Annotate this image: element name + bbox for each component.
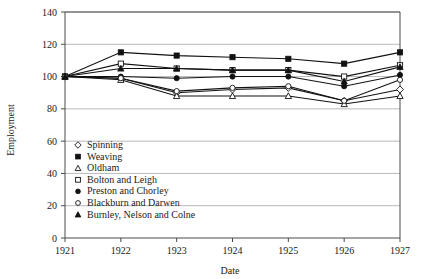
y-axis-ticks: 020406080100120140 <box>42 7 65 244</box>
marker-circle-open <box>118 76 123 81</box>
legend-item-burnley-nelson-and-colne: Burnley, Nelson and Colne <box>75 209 196 220</box>
legend-item-label: Blackburn and Darwen <box>87 197 180 208</box>
marker-triangle-filled <box>75 212 81 217</box>
y-tick-label: 140 <box>42 7 57 18</box>
y-tick-label: 120 <box>42 39 57 50</box>
legend-item-label: Preston and Chorley <box>87 185 169 196</box>
x-axis-title: Date <box>221 265 240 276</box>
x-axis-ticks: 1921192219231924192519261927 <box>55 238 410 256</box>
y-tick-label: 60 <box>47 136 57 147</box>
marker-circle-filled <box>286 74 291 79</box>
legend-item-label: Bolton and Leigh <box>87 174 157 185</box>
y-tick-label: 100 <box>42 71 57 82</box>
marker-square-filled <box>118 50 123 55</box>
legend-item-bolton-and-leigh: Bolton and Leigh <box>76 174 157 185</box>
marker-circle-open <box>174 89 179 94</box>
employment-line-chart: 020406080100120140 192119221923192419251… <box>0 0 424 279</box>
marker-square-filled <box>76 154 81 159</box>
marker-circle-open <box>342 98 347 103</box>
marker-square-filled <box>286 56 291 61</box>
x-tick-label: 1926 <box>334 245 354 256</box>
legend-item-label: Oldham <box>87 162 119 173</box>
marker-circle-filled <box>230 74 235 79</box>
x-tick-label: 1925 <box>278 245 298 256</box>
marker-square-filled <box>174 53 179 58</box>
x-tick-label: 1923 <box>167 245 187 256</box>
chart-legend: SpinningWeavingOldhamBolton and LeighPre… <box>75 139 196 220</box>
x-tick-label: 1927 <box>390 245 410 256</box>
y-axis-title: Employment <box>5 104 16 156</box>
y-tick-label: 80 <box>47 103 57 114</box>
legend-item-spinning: Spinning <box>75 139 123 150</box>
marker-circle-open <box>286 84 291 89</box>
marker-diamond-open <box>75 142 81 148</box>
legend-item-blackburn-and-darwen: Blackburn and Darwen <box>76 197 180 208</box>
marker-square-filled <box>230 55 235 60</box>
y-tick-label: 0 <box>52 233 57 244</box>
marker-triangle-open <box>397 93 403 99</box>
legend-item-label: Weaving <box>87 151 122 162</box>
marker-circle-filled <box>174 76 179 81</box>
marker-circle-open <box>76 201 81 206</box>
marker-square-filled <box>397 50 402 55</box>
x-tick-label: 1924 <box>223 245 243 256</box>
marker-square-filled <box>342 61 347 66</box>
marker-circle-open <box>397 77 402 82</box>
legend-item-oldham: Oldham <box>75 162 119 173</box>
legend-item-preston-and-chorley: Preston and Chorley <box>76 185 169 196</box>
legend-item-weaving: Weaving <box>76 151 123 162</box>
marker-circle-filled <box>342 84 347 89</box>
y-tick-label: 20 <box>47 200 57 211</box>
chart-canvas: 020406080100120140 192119221923192419251… <box>0 0 424 279</box>
data-series <box>61 50 403 107</box>
marker-square-open <box>76 177 81 182</box>
y-tick-label: 40 <box>47 168 57 179</box>
marker-triangle-open <box>75 165 81 170</box>
legend-item-label: Spinning <box>87 139 123 150</box>
marker-circle-filled <box>76 189 81 194</box>
x-tick-label: 1921 <box>55 245 75 256</box>
x-tick-label: 1922 <box>111 245 131 256</box>
legend-item-label: Burnley, Nelson and Colne <box>87 209 196 220</box>
marker-circle-open <box>230 85 235 90</box>
